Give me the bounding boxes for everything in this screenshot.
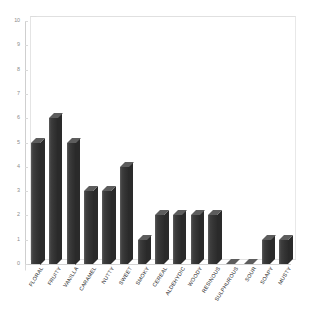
bar-side-face: [217, 210, 222, 264]
y-tick-label: 9: [4, 43, 20, 48]
bar-top-face: [244, 259, 258, 264]
x-axis-category-label: CEREAL: [152, 266, 169, 288]
bar[interactable]: [173, 209, 182, 264]
x-axis-category-label: FLORAL: [28, 266, 44, 288]
bar[interactable]: [102, 185, 111, 264]
bar-front-face: [138, 240, 147, 264]
x-axis-category-label: CARAMEL: [79, 266, 98, 292]
bar-front-face: [279, 240, 288, 264]
bar-front-face: [155, 215, 164, 264]
y-tick-label: 5: [4, 140, 20, 145]
bar-side-face: [128, 162, 133, 264]
y-tick-label: 2: [4, 213, 20, 218]
y-tick-label: 6: [4, 115, 20, 120]
bar-front-face: [84, 191, 93, 264]
bar-side-face: [40, 138, 45, 265]
x-axis-category-label: SWEET: [118, 266, 133, 286]
bar-side-face: [164, 210, 169, 264]
bar[interactable]: [226, 258, 235, 264]
bar[interactable]: [279, 234, 288, 264]
y-axis-ticks: 012345678910: [4, 18, 20, 259]
x-axis-category-label: NUTTY: [101, 266, 116, 285]
y-tick-mark: [25, 264, 28, 265]
bar[interactable]: [191, 209, 200, 264]
bar[interactable]: [244, 258, 253, 264]
y-tick-label: 7: [4, 91, 20, 96]
bar-side-face: [111, 186, 116, 264]
bar-side-face: [181, 210, 186, 264]
bar-side-face: [57, 113, 62, 264]
bar-front-face: [102, 191, 111, 264]
y-tick-label: 8: [4, 67, 20, 72]
y-tick-label: 10: [4, 18, 20, 23]
bar[interactable]: [120, 161, 129, 264]
plot-area: 012345678910 FLORALFRUITYVANILLACARAMELN…: [0, 0, 319, 322]
bar[interactable]: [138, 234, 147, 264]
x-axis-category-label: SOAPY: [260, 266, 275, 285]
bar-front-face: [31, 143, 40, 265]
x-axis-category-label: SOUR: [244, 266, 257, 283]
bar[interactable]: [84, 185, 93, 264]
bar-front-face: [262, 240, 271, 264]
bar-front-face: [191, 215, 200, 264]
bar-top-face: [226, 259, 240, 264]
bars-layer: [25, 21, 291, 264]
x-axis-category-label: ALDEHYDIC: [164, 266, 186, 296]
y-tick-label: 3: [4, 188, 20, 193]
bar-front-face: [120, 167, 129, 264]
bar[interactable]: [208, 209, 217, 264]
bar[interactable]: [49, 112, 58, 264]
bar-front-face: [208, 215, 217, 264]
x-axis-category-label: MUSTY: [278, 266, 293, 286]
bar[interactable]: [31, 137, 40, 265]
bar[interactable]: [67, 137, 76, 265]
bar-chart: 012345678910 FLORALFRUITYVANILLACARAMELN…: [0, 0, 319, 322]
y-tick-label: 0: [4, 261, 20, 266]
x-axis-category-label: SMOKY: [135, 266, 150, 286]
y-tick-label: 4: [4, 164, 20, 169]
y-tick-label: 1: [4, 237, 20, 242]
x-axis-category-label: VANILLA: [63, 266, 80, 288]
bar-side-face: [75, 138, 80, 265]
bar-side-face: [199, 210, 204, 264]
bar-side-face: [288, 235, 293, 264]
x-axis-category-label: FRUITY: [47, 266, 62, 286]
bar-side-face: [93, 186, 98, 264]
x-axis-labels: FLORALFRUITYVANILLACARAMELNUTTYSWEETSMOK…: [25, 266, 291, 322]
bar[interactable]: [262, 234, 271, 264]
bar[interactable]: [155, 209, 164, 264]
bar-front-face: [67, 143, 76, 265]
x-axis-category-label: WOODY: [188, 266, 204, 287]
